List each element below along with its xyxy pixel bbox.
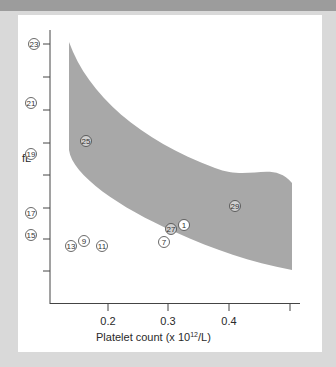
point-23: 23 bbox=[29, 39, 40, 50]
svg-text:19: 19 bbox=[27, 150, 36, 159]
svg-text:21: 21 bbox=[27, 99, 36, 108]
y-ticks bbox=[43, 44, 50, 271]
svg-text:29: 29 bbox=[231, 202, 240, 211]
point-13: 13 bbox=[66, 241, 77, 252]
svg-text:25: 25 bbox=[82, 137, 91, 146]
svg-text:11: 11 bbox=[98, 242, 107, 251]
x-tick-label: 0.3 bbox=[160, 315, 175, 327]
svg-text:13: 13 bbox=[67, 242, 76, 251]
scatter-chart: 0.2 0.3 0.4 Platelet count (x 1012/L) fL… bbox=[0, 0, 336, 367]
point-19: 19 bbox=[26, 149, 37, 160]
svg-text:23: 23 bbox=[30, 40, 39, 49]
point-9: 9 bbox=[79, 236, 90, 247]
x-axis-title: Platelet count (x 1012/L) bbox=[96, 331, 211, 343]
point-11: 11 bbox=[97, 241, 108, 252]
reference-band bbox=[69, 42, 292, 270]
x-ticks bbox=[108, 304, 290, 311]
svg-text:1: 1 bbox=[182, 221, 187, 230]
svg-text:27: 27 bbox=[167, 225, 176, 234]
point-17: 17 bbox=[26, 208, 37, 219]
svg-text:17: 17 bbox=[27, 209, 36, 218]
point-7: 7 bbox=[159, 237, 170, 248]
point-25: 25 bbox=[81, 136, 92, 147]
x-tick-label: 0.2 bbox=[100, 315, 115, 327]
svg-text:9: 9 bbox=[82, 237, 87, 246]
point-29: 29 bbox=[230, 201, 241, 212]
svg-text:7: 7 bbox=[162, 238, 167, 247]
point-21: 21 bbox=[26, 98, 37, 109]
point-1: 1 bbox=[179, 220, 190, 231]
point-15: 15 bbox=[26, 230, 37, 241]
point-27: 27 bbox=[166, 224, 177, 235]
x-tick-label: 0.4 bbox=[221, 315, 236, 327]
svg-text:15: 15 bbox=[27, 231, 36, 240]
